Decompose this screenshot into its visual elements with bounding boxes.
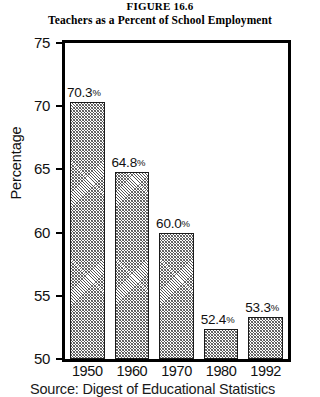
percent-sign: % <box>137 157 145 168</box>
bar-1992 <box>248 317 283 359</box>
plot-area: 70.3%64.8%60.0%52.4%53.3% <box>62 40 291 362</box>
y-tick-label-75: 75 <box>4 34 50 51</box>
figure-number: FIGURE 16.6 <box>0 0 320 13</box>
bar-value-number: 64.8 <box>112 155 137 170</box>
y-tick-mark-55 <box>56 295 62 297</box>
bar-value-number: 70.3 <box>67 85 92 100</box>
bar-value-label-1992: 53.3% <box>245 300 279 315</box>
y-tick-label-55: 55 <box>4 287 50 304</box>
bar-1960 <box>115 172 150 359</box>
bar-value-label-1970: 60.0% <box>156 216 190 231</box>
y-tick-mark-70 <box>56 105 62 107</box>
bar-value-number: 53.3 <box>245 300 270 315</box>
page-title: Teachers as a Percent of School Employme… <box>0 13 320 27</box>
bar-1970 <box>159 233 194 359</box>
percent-sign: % <box>92 87 100 98</box>
y-tick-label-60: 60 <box>4 224 50 241</box>
y-tick-mark-60 <box>56 232 62 234</box>
source-note: Source: Digest of Educational Statistics <box>30 381 320 397</box>
bar-1980 <box>204 329 239 359</box>
percent-sign: % <box>182 218 190 229</box>
percent-sign: % <box>271 302 279 313</box>
y-tick-mark-75 <box>56 42 62 44</box>
y-tick-label-50: 50 <box>4 350 50 367</box>
plot-inner: 70.3%64.8%60.0%52.4%53.3% <box>65 43 288 359</box>
x-tick-label-1992: 1992 <box>236 363 296 379</box>
percent-sign: % <box>226 314 234 325</box>
figure-title-block: FIGURE 16.6 Teachers as a Percent of Sch… <box>0 0 320 27</box>
bar-value-label-1950: 70.3% <box>67 85 101 100</box>
y-tick-mark-50 <box>56 358 62 360</box>
y-tick-mark-65 <box>56 168 62 170</box>
bar-value-number: 60.0 <box>156 216 181 231</box>
bar-value-label-1960: 64.8% <box>112 155 146 170</box>
y-axis-title: Percentage <box>8 103 24 223</box>
bar-1950 <box>70 102 105 359</box>
bar-value-label-1980: 52.4% <box>201 312 235 327</box>
bar-value-number: 52.4 <box>201 312 226 327</box>
